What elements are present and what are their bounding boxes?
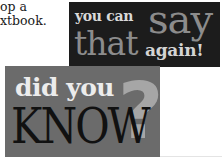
banner-again-text: again!	[145, 42, 203, 59]
body-text-line-2: xtbook.	[0, 14, 66, 28]
did-you-know-banner: ? did you KNOW	[5, 66, 160, 157]
body-text-fragment: op a xtbook.	[0, 0, 66, 28]
banner-you-can-text: you can	[75, 9, 133, 23]
banner-say-text: say	[148, 2, 212, 39]
divider	[160, 156, 222, 157]
banner-did-you-text: did you	[15, 75, 114, 100]
body-text-line-1: op a	[0, 0, 66, 14]
banner-that-text: that	[74, 27, 137, 60]
banner-know-text: KNOW	[11, 103, 149, 151]
you-can-say-that-again-banner: you can say that again!	[69, 2, 220, 67]
